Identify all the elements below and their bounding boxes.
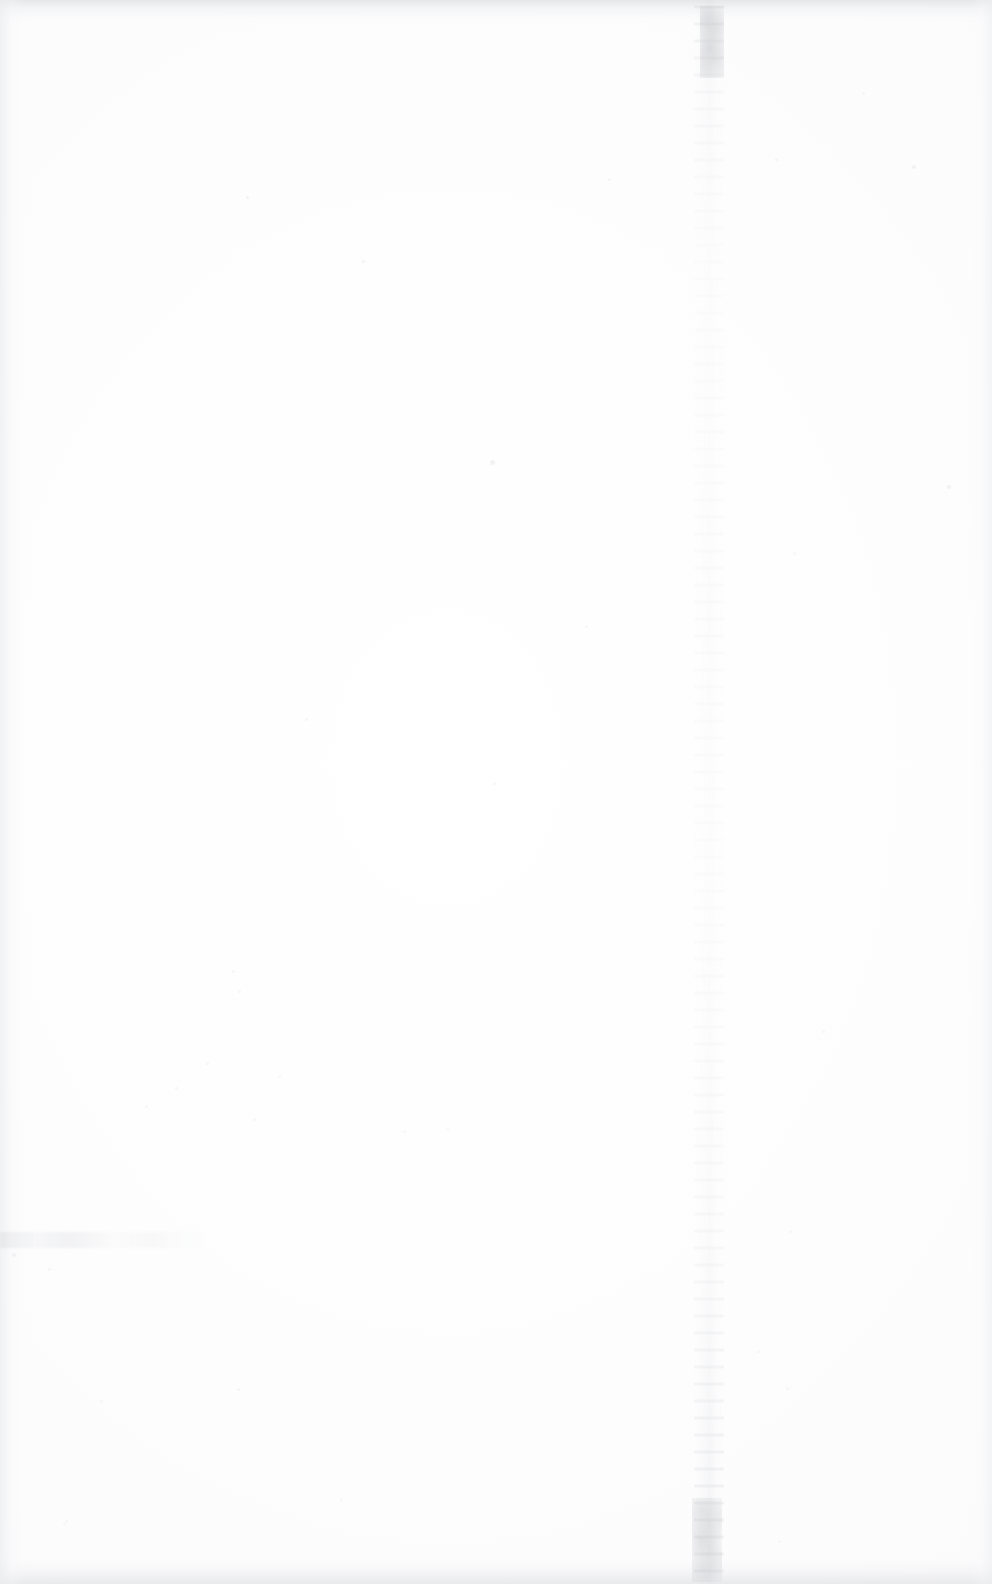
scanned-page-viewport [0, 0, 992, 1584]
paper-surface [0, 0, 992, 1584]
